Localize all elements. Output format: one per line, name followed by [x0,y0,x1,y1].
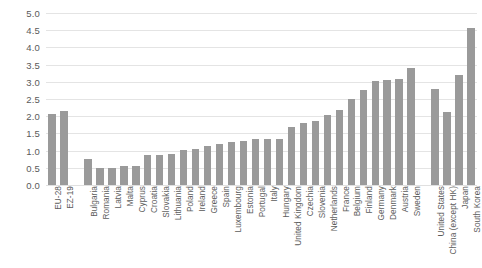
x-axis-tick-label: Poland [187,186,195,212]
x-axis-tick-label: Czechia [307,186,315,216]
bar [372,81,379,185]
x-axis-tick-label: Greece [211,186,219,213]
x-axis-tick-label: Japan [462,186,470,209]
x-axis-tick-label: France [343,186,351,212]
x-axis-tick-label: Croatia [151,186,159,213]
x-axis-tick-label: Luxembourg [235,186,243,233]
x-axis-tick-label: Spain [223,186,231,207]
bar [276,139,283,185]
x-axis-tick-label: Malta [127,186,135,207]
bar [168,154,175,185]
bar [348,99,355,185]
bar [144,155,151,185]
bar [156,155,163,185]
y-axis-tick-label: 3.0 [26,76,40,87]
bar [228,142,235,185]
x-axis-tick-label: United States [438,186,446,236]
bar [431,89,438,185]
x-axis-tick-label: EZ-19 [67,186,75,209]
y-axis-tick-label: 0.5 [26,162,40,173]
y-axis-tick-label: 0.0 [26,180,40,191]
y-axis: 5.04.54.03.53.02.52.01.51.00.50.0 [0,0,46,190]
bar [96,168,103,185]
x-axis-tick-label: Bulgaria [91,186,99,217]
bar [324,115,331,185]
bar [180,150,187,185]
bar [360,90,367,185]
bar [132,166,139,185]
bar [443,112,450,185]
x-axis-tick-label: Germany [378,186,386,220]
y-axis-tick-label: 4.0 [26,42,40,53]
bar [204,146,211,185]
bar [383,80,390,185]
x-axis-tick-label: United Kingdom [295,186,303,246]
bar [407,68,414,185]
bar [84,159,91,185]
bar [252,139,259,185]
bar [240,141,247,185]
bar [300,123,307,185]
x-axis-tick-label: Finland [366,186,374,214]
bar [216,144,223,185]
y-axis-tick-label: 2.0 [26,111,40,122]
x-axis-tick-label: Netherlands [331,186,339,231]
x-axis-tick-label: Belgium [354,186,362,216]
bar [192,149,199,185]
x-axis-tick-label: Cyprus [139,186,147,213]
bar [455,75,462,185]
x-axis-tick-label: EU-28 [55,186,63,210]
x-axis-tick-label: China (except HK) [450,186,458,255]
x-axis-tick-label: Ireland [199,186,207,212]
y-axis-tick-label: 5.0 [26,8,40,19]
x-axis-tick-label: Italy [271,186,279,202]
x-axis-tick-label: Sweden [414,186,422,216]
x-axis-tick-label: Hungary [283,186,291,218]
x-axis-tick-label: Lithuania [175,186,183,220]
x-axis-tick-label: Latvia [115,186,123,208]
plot-area [46,13,477,185]
y-axis-tick-label: 2.5 [26,94,40,105]
y-axis-tick-label: 1.0 [26,145,40,156]
bar [264,139,271,185]
bar [336,110,343,185]
bar [467,28,474,185]
bar [60,111,67,185]
x-axis-tick-label: South Korea [474,186,482,233]
y-axis-tick-label: 3.5 [26,59,40,70]
x-axis: EU-28EZ-19BulgariaRomaniaLatviaMaltaCypr… [46,186,477,268]
x-axis-tick-label: Estonia [247,186,255,214]
x-axis-tick-label: Austria [402,186,410,212]
bar [288,127,295,185]
bar [120,166,127,185]
x-axis-tick-label: Slovakia [163,186,171,218]
y-axis-tick-label: 1.5 [26,128,40,139]
y-axis-tick-label: 4.5 [26,25,40,36]
bar [108,168,115,185]
bar [395,79,402,185]
x-axis-tick-label: Denmark [390,186,398,220]
x-axis-tick-label: Portugal [259,186,267,217]
bar [312,121,319,185]
x-axis-tick-label: Romania [103,186,111,219]
bar [48,114,55,185]
x-axis-tick-label: Slovenia [319,186,327,218]
bar-series [46,13,477,185]
